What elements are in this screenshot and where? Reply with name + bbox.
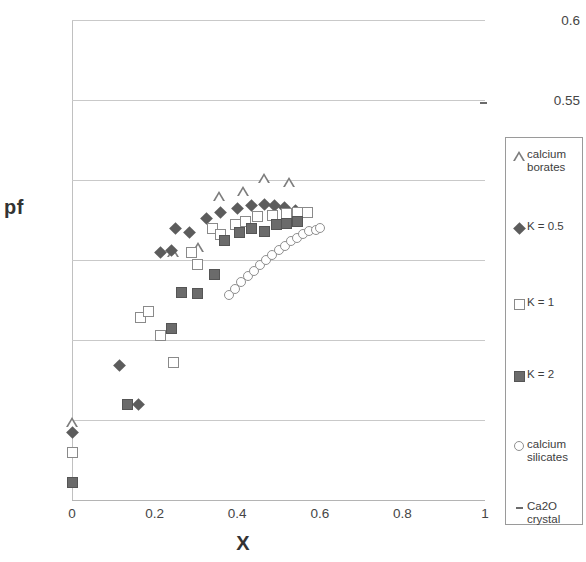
data-point bbox=[132, 398, 145, 411]
gridline-y bbox=[72, 100, 485, 101]
data-point bbox=[302, 207, 313, 218]
data-point bbox=[245, 199, 258, 212]
data-point bbox=[168, 357, 179, 368]
legend-item[interactable]: K = 1 bbox=[513, 296, 583, 311]
legend-item-label: K = 1 bbox=[527, 296, 554, 309]
plot-area bbox=[72, 20, 485, 500]
data-point bbox=[113, 359, 126, 372]
x-axis-tick-label: 1 bbox=[465, 506, 505, 521]
marker-glyph bbox=[514, 371, 525, 382]
x-axis-tick-label: 0.4 bbox=[217, 506, 257, 521]
chart-legend: calcium boratesK = 0.5K = 1K = 2calcium … bbox=[505, 137, 583, 525]
gridline-y bbox=[72, 260, 485, 261]
legend-marker-filled-diamond-icon bbox=[513, 221, 525, 235]
marker-glyph bbox=[513, 222, 526, 235]
marker-glyph bbox=[514, 441, 524, 451]
data-point bbox=[192, 259, 203, 270]
x-axis-title: X bbox=[0, 532, 486, 555]
data-point bbox=[169, 222, 182, 235]
data-point bbox=[259, 226, 270, 237]
legend-item-label: K = 0.5 bbox=[527, 220, 564, 233]
data-point bbox=[192, 288, 203, 299]
x-axis-tick-label: 0 bbox=[52, 506, 92, 521]
x-axis-tick-label: 0.8 bbox=[382, 506, 422, 521]
scatter-chart-figure: pf X 0.30.350.40.450.50.550.6 00.20.40.6… bbox=[0, 0, 586, 562]
data-point bbox=[246, 223, 257, 234]
data-point bbox=[292, 216, 303, 227]
legend-item[interactable]: calcium silicates bbox=[513, 438, 583, 464]
data-point bbox=[186, 247, 197, 258]
data-point bbox=[166, 323, 177, 334]
data-point bbox=[480, 102, 487, 104]
marker-glyph bbox=[516, 507, 523, 509]
marker-glyph bbox=[513, 151, 525, 161]
data-point bbox=[209, 269, 220, 280]
x-axis-tick-label: 0.2 bbox=[135, 506, 175, 521]
y-axis-tick-label: 0.6 bbox=[520, 13, 580, 28]
legend-marker-open-square-icon bbox=[513, 297, 525, 311]
legend-item-label: K = 2 bbox=[527, 368, 554, 381]
gridline-y bbox=[72, 420, 485, 421]
data-point bbox=[154, 246, 167, 259]
legend-marker-open-circle-icon bbox=[513, 439, 525, 453]
legend-marker-filled-square-icon bbox=[513, 369, 525, 383]
data-point bbox=[67, 447, 78, 458]
data-point bbox=[214, 206, 227, 219]
legend-marker-open-triangle-icon bbox=[513, 149, 525, 163]
data-point bbox=[219, 235, 230, 246]
data-point bbox=[231, 202, 244, 215]
legend-item-label: Ca2O crystal bbox=[527, 500, 560, 526]
data-point bbox=[237, 186, 249, 196]
legend-item[interactable]: Ca2O crystal bbox=[513, 500, 583, 526]
legend-item-label: calcium silicates bbox=[527, 438, 568, 464]
gridline-y bbox=[72, 340, 485, 341]
data-point bbox=[315, 223, 325, 233]
legend-item[interactable]: K = 0.5 bbox=[513, 220, 583, 235]
data-point bbox=[258, 173, 270, 183]
data-point bbox=[252, 211, 263, 222]
data-point bbox=[234, 227, 245, 238]
data-point bbox=[283, 177, 295, 187]
data-point bbox=[67, 477, 78, 488]
data-point bbox=[66, 426, 79, 439]
legend-item[interactable]: calcium borates bbox=[513, 148, 583, 174]
y-axis-title: pf bbox=[4, 196, 24, 219]
legend-item-label: calcium borates bbox=[527, 148, 566, 174]
data-point bbox=[176, 287, 187, 298]
marker-glyph bbox=[514, 299, 525, 310]
data-point bbox=[213, 191, 225, 201]
y-axis-tick-label: 0.55 bbox=[520, 93, 580, 108]
gridline-y bbox=[72, 500, 485, 501]
data-point bbox=[183, 226, 196, 239]
data-point bbox=[122, 399, 133, 410]
legend-marker-dash-icon bbox=[513, 501, 525, 515]
gridline-y bbox=[72, 180, 485, 181]
gridline-y bbox=[72, 20, 485, 21]
legend-item[interactable]: K = 2 bbox=[513, 368, 583, 383]
data-point bbox=[143, 306, 154, 317]
x-axis-tick-label: 0.6 bbox=[300, 506, 340, 521]
